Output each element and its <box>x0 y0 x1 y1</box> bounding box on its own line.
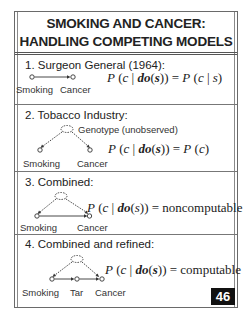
tar-node-icon <box>75 277 79 281</box>
slide-frame: SMOKING AND CANCER: HANDLING COMPETING M… <box>14 11 238 308</box>
node-label-tar: Tar <box>70 287 83 298</box>
page-number-badge: 46 <box>211 288 235 305</box>
formula-4: P (c | do(s)) = computable <box>105 262 241 278</box>
smoking-node-icon <box>50 277 54 281</box>
node-label-cancer: Cancer <box>95 287 126 298</box>
latent-node-icon <box>71 256 83 263</box>
cancer-node-icon <box>100 277 104 281</box>
node-label-smoking: Smoking <box>22 287 59 298</box>
